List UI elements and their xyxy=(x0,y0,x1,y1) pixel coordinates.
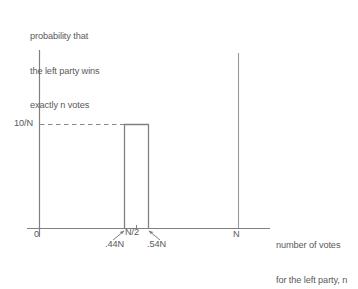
x-tick-label-n-half: N/2 xyxy=(125,227,139,239)
x-axis-label-line-1: number of votes xyxy=(276,240,347,252)
y-axis-label: probability that the left party wins exa… xyxy=(30,8,100,135)
x-tick-label-n: N xyxy=(233,229,240,241)
y-tick-label-10-over-n: 10/N xyxy=(14,118,33,130)
y-axis-label-line-2: the left party wins xyxy=(30,66,100,78)
annotation-label-44n: .44N xyxy=(105,239,124,251)
y-axis-label-line-3: exactly n votes xyxy=(30,100,100,112)
x-tick-label-zero: 0 xyxy=(34,229,39,241)
x-axis-label-line-2: for the left party, n xyxy=(276,275,347,287)
x-axis-label: number of votes for the left party, n xyxy=(276,217,347,289)
probability-block xyxy=(125,125,149,229)
annotation-label-54n: .54N xyxy=(147,239,166,251)
y-axis-label-line-1: probability that xyxy=(30,31,100,43)
